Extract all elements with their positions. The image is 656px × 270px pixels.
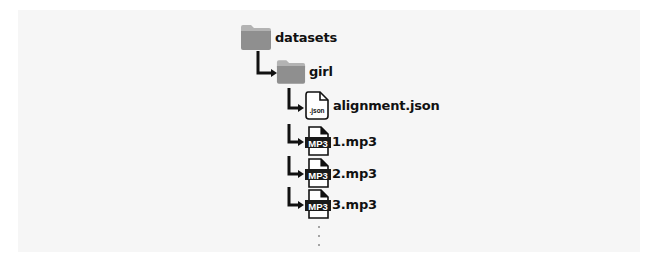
svg-text:MP3: MP3 — [308, 138, 328, 149]
folder-icon — [276, 58, 306, 85]
node-label: datasets — [275, 30, 337, 45]
tree-node-1-mp3: MP3 1.mp3 — [304, 126, 377, 156]
tree-node-girl: girl — [276, 58, 333, 85]
json-file-icon: .json — [305, 91, 329, 120]
node-label: 3.mp3 — [332, 197, 377, 212]
mp3-file-icon: MP3 — [304, 189, 332, 219]
node-label: alignment.json — [333, 98, 440, 113]
folder-icon — [240, 23, 272, 51]
svg-text:.json: .json — [309, 107, 324, 115]
tree-node-2-mp3: MP3 2.mp3 — [304, 158, 377, 188]
node-label: 2.mp3 — [332, 166, 377, 181]
mp3-file-icon: MP3 — [304, 126, 332, 156]
mp3-file-icon: MP3 — [304, 158, 332, 188]
tree-node-3-mp3: MP3 3.mp3 — [304, 189, 377, 219]
tree-connector — [285, 88, 307, 114]
node-label: girl — [309, 64, 333, 79]
tree-node-datasets: datasets — [240, 23, 337, 51]
svg-text:MP3: MP3 — [308, 201, 328, 212]
svg-text:MP3: MP3 — [308, 170, 328, 181]
node-label: 1.mp3 — [332, 134, 377, 149]
tree-node-alignment-json: .json alignment.json — [305, 91, 440, 120]
